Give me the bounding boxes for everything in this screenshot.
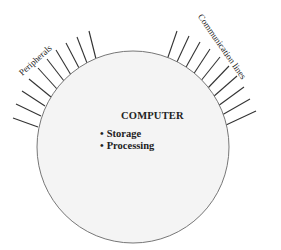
bullet-storage: Storage (100, 128, 154, 140)
computer-title: COMPUTER (121, 110, 184, 121)
computer-diagram (0, 0, 281, 250)
computer-functions-list: Storage Processing (100, 128, 154, 152)
bullet-processing: Processing (100, 140, 154, 152)
